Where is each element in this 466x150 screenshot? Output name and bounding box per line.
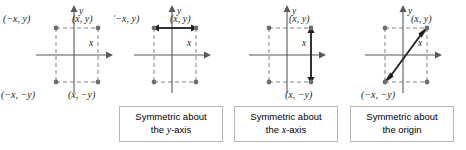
caption-y-axis: Symmetric about the y-axis [119, 106, 223, 142]
point-upper-right [425, 26, 430, 31]
point-label-upper-right: (x, y) [72, 13, 93, 25]
point-label-upper-right: (x, y) [411, 13, 432, 25]
point-upper-left [383, 26, 388, 31]
point-lower-right [96, 80, 101, 85]
coordinate-plane-2: x y (−x, y) (x, y) [114, 0, 230, 103]
point-lower-right [309, 80, 314, 85]
point-label-upper-right: (x, y) [289, 13, 310, 25]
caption-line-1: Symmetric about [135, 111, 206, 122]
x-axis-label-2: x [186, 38, 192, 48]
point-upper-right [194, 26, 199, 31]
point-label-upper-left: (−x, y) [114, 13, 140, 25]
point-label-lower-right: (x, −y) [68, 89, 96, 101]
caption-x-axis: Symmetric about the x-axis [234, 106, 338, 142]
point-lower-left [383, 80, 388, 85]
point-lower-left [152, 80, 157, 85]
point-label-lower-left: (−x, −y) [1, 89, 36, 101]
x-axis-label-3: x [301, 38, 307, 48]
panel-x-axis-symmetry: x y (x, y) (x, −y) Symmetric ab [229, 0, 345, 150]
caption-line-2-pre: the [266, 124, 282, 135]
caption-line-2-pre: the origin [382, 124, 421, 135]
point-upper-left [54, 26, 59, 31]
point-upper-right [309, 26, 314, 31]
point-upper-right [96, 26, 101, 31]
caption-origin: Symmetric about the origin [350, 106, 454, 142]
panel-plain: x y (−x, y) (x, y) (−x, −y) (x, −y) [0, 0, 116, 150]
caption-line-2-pre: the [151, 124, 167, 135]
axes [249, 5, 326, 93]
point-upper-left [152, 26, 157, 31]
symmetry-figure: x y (−x, y) (x, y) (−x, −y) (x, −y) [0, 0, 466, 150]
coordinate-plane-4: x y (x, y) (−x, −y) [345, 0, 461, 103]
panel-origin-symmetry: x y (x, y) (−x, −y) Symmetric a [345, 0, 461, 150]
caption-line-1: Symmetric about [250, 111, 321, 122]
horizontal-double-arrow [152, 24, 198, 31]
caption-line-1: Symmetric about [366, 111, 437, 122]
coordinate-plane-1: x y (−x, y) (x, y) (−x, −y) (x, −y) [0, 0, 116, 103]
point-lower-left [267, 80, 272, 85]
coordinate-plane-3: x y (x, y) (x, −y) [229, 0, 345, 103]
point-lower-left [54, 80, 59, 85]
point-label-upper-right: (x, y) [170, 13, 191, 25]
caption-line-2-post: -axis [286, 124, 306, 135]
x-axis-label-1: x [88, 38, 94, 48]
point-lower-right [425, 80, 430, 85]
point-label-lower-left: (−x, −y) [361, 89, 396, 101]
point-lower-right [194, 80, 199, 85]
point-label-lower-right: (x, −y) [285, 89, 313, 101]
point-upper-left [267, 26, 272, 31]
point-label-upper-left: (−x, y) [3, 13, 31, 25]
caption-line-2-post: -axis [171, 124, 191, 135]
panel-y-axis-symmetry: x y (−x, y) (x, y) Symmetric ab [114, 0, 230, 150]
